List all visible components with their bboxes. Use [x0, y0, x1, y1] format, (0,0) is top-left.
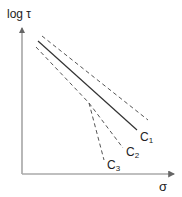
curve-c3-label: C3	[107, 159, 120, 173]
curve-c3-subscript: 3	[116, 164, 120, 173]
curve-c1-name: C	[140, 130, 149, 144]
diagram-canvas	[0, 0, 182, 197]
curve-c3-line	[89, 103, 104, 160]
curve-c2-line	[89, 103, 123, 148]
curve-c2-name: C	[126, 145, 135, 159]
curve-c2-label: C2	[126, 146, 139, 160]
curve-c2-subscript: 2	[135, 151, 139, 160]
curve-c3-name: C	[107, 158, 116, 172]
curve-c1-line	[38, 41, 137, 130]
x-axis-label: σ	[159, 180, 167, 193]
curve-c1-label: C1	[140, 131, 153, 145]
y-axis-label: log τ	[7, 8, 31, 20]
curve-c1-subscript: 1	[149, 136, 153, 145]
log-tau-vs-sigma-diagram: log τ σ C1 C2 C3	[0, 0, 182, 197]
lower-dashed-line	[36, 47, 89, 103]
upper-dashed-line	[42, 36, 148, 120]
